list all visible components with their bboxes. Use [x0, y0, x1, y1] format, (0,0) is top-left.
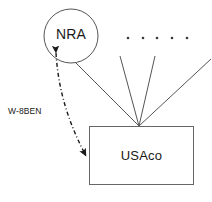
- edge-owner-line-2: [120, 56, 139, 126]
- node-nra-label: NRA: [44, 26, 98, 42]
- edge-owner-line-3: [139, 56, 155, 126]
- diagram-canvas: NRA USAco W-8BEN: [0, 0, 212, 202]
- diagram-vector-layer: [0, 0, 212, 202]
- ellipsis-dot: [156, 37, 159, 40]
- ellipsis-dot: [171, 37, 174, 40]
- node-usaco-label: USAco: [89, 148, 194, 163]
- edge-label-w8ben: W-8BEN: [8, 106, 68, 116]
- ellipsis-dot: [186, 37, 189, 40]
- other-owners-ellipsis: [127, 37, 189, 40]
- edge-nra-to-usaco-solid: [75, 62, 139, 126]
- edge-owner-line-4: [139, 59, 211, 126]
- ellipsis-dot: [127, 37, 130, 40]
- ellipsis-dot: [142, 37, 145, 40]
